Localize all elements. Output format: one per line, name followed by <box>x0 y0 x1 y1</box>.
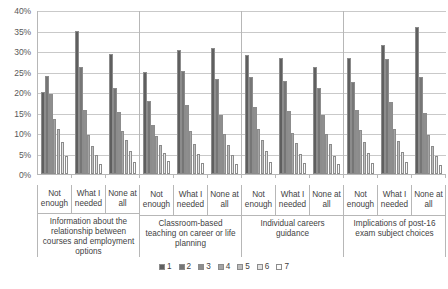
y-axis: 0%5%10%15%20%25%30%35%40% <box>0 11 34 175</box>
bar <box>83 110 86 174</box>
bar <box>215 79 218 174</box>
y-axis-tick-label: 10% <box>14 130 31 139</box>
bar <box>337 164 340 174</box>
bar <box>381 45 384 174</box>
subcategory-bar-cluster <box>106 11 140 174</box>
subcategory-label: What I needed <box>72 185 106 213</box>
legend-item[interactable]: 7 <box>276 262 289 271</box>
y-axis-tick-label: 25% <box>14 68 31 77</box>
bar <box>253 107 256 174</box>
bar <box>181 71 184 174</box>
bar <box>393 129 396 174</box>
bar <box>317 88 320 174</box>
category-axis-table: Not enoughWhat I neededNone at allInform… <box>37 185 446 257</box>
bar <box>61 142 64 174</box>
bar <box>287 111 290 174</box>
y-axis-tick-label: 20% <box>14 89 31 98</box>
bar <box>245 55 248 174</box>
category-group <box>344 11 446 174</box>
legend-swatch-icon <box>179 264 185 270</box>
x-axis-tick <box>445 174 446 178</box>
bar-groups <box>38 11 446 174</box>
bar <box>95 155 98 174</box>
bar <box>359 130 362 174</box>
bar <box>435 156 438 174</box>
legend-label: 7 <box>284 262 289 271</box>
bar <box>439 165 442 174</box>
bar <box>333 156 336 174</box>
legend-label: 1 <box>167 262 172 271</box>
bar <box>159 145 162 174</box>
bar <box>295 143 298 174</box>
bar <box>197 154 200 175</box>
x-axis-tick <box>173 174 174 178</box>
subcategory-label: None at all <box>412 185 445 215</box>
legend-swatch-icon <box>218 264 224 270</box>
y-axis-tick-label: 0% <box>19 171 31 180</box>
bar <box>45 76 48 174</box>
bar <box>227 145 230 174</box>
subcategory-label-row: Not enoughWhat I neededNone at all <box>344 185 445 216</box>
bar <box>125 140 128 174</box>
subcategory-label: None at all <box>208 185 241 215</box>
bar <box>189 131 192 174</box>
legend-item[interactable]: 1 <box>159 262 172 271</box>
legend-label: 6 <box>265 262 270 271</box>
bar <box>235 164 238 174</box>
subcategory-bar-cluster <box>412 11 446 174</box>
bar <box>113 88 116 174</box>
legend-item[interactable]: 5 <box>237 262 250 271</box>
legend-swatch-icon <box>257 264 263 270</box>
legend-item[interactable]: 4 <box>218 262 231 271</box>
chart-legend: 1234567 <box>0 262 448 271</box>
bar <box>423 113 426 174</box>
bar <box>133 162 136 174</box>
category-column: Not enoughWhat I neededNone at allIndivi… <box>242 185 344 257</box>
legend-swatch-icon <box>276 264 282 270</box>
category-group <box>242 11 344 174</box>
bar <box>201 163 204 174</box>
subcategory-label: Not enough <box>344 185 378 215</box>
bar <box>219 115 222 174</box>
bar <box>65 156 68 174</box>
bar <box>389 102 392 174</box>
x-axis-tick <box>411 174 412 178</box>
bar <box>177 50 180 174</box>
legend-item[interactable]: 2 <box>179 262 192 271</box>
bar <box>363 142 366 174</box>
bar <box>279 58 282 174</box>
bar-chart: 0%5%10%15%20%25%30%35%40% Not enoughWhat… <box>0 0 448 289</box>
category-label: Implications of post-16 exam subject cho… <box>344 216 445 257</box>
x-axis-tick <box>207 174 208 178</box>
bar <box>351 82 354 174</box>
category-group <box>38 11 140 174</box>
bar <box>57 129 60 174</box>
subcategory-bar-cluster <box>242 11 276 174</box>
bar <box>49 94 52 174</box>
subcategory-bar-cluster <box>208 11 242 174</box>
subcategory-bar-cluster <box>310 11 344 174</box>
legend-item[interactable]: 3 <box>198 262 211 271</box>
bar <box>269 162 272 174</box>
x-axis-tick <box>105 174 106 178</box>
subcategory-bar-cluster <box>174 11 208 174</box>
bar <box>329 144 332 174</box>
subcategory-bar-cluster <box>140 11 174 174</box>
bar <box>415 27 418 174</box>
bar <box>291 133 294 174</box>
bar <box>419 77 422 174</box>
category-group <box>140 11 242 174</box>
bar <box>185 105 188 174</box>
bar <box>385 59 388 174</box>
bar <box>75 31 78 174</box>
subcategory-label: None at all <box>106 185 139 213</box>
bar <box>427 135 430 174</box>
legend-label: 3 <box>206 262 211 271</box>
legend-item[interactable]: 6 <box>257 262 270 271</box>
bar <box>117 112 120 174</box>
bar <box>193 144 196 174</box>
x-axis-tick <box>71 174 72 178</box>
bar <box>299 154 302 174</box>
bar <box>397 141 400 174</box>
category-column: Not enoughWhat I neededNone at allImplic… <box>344 185 446 257</box>
